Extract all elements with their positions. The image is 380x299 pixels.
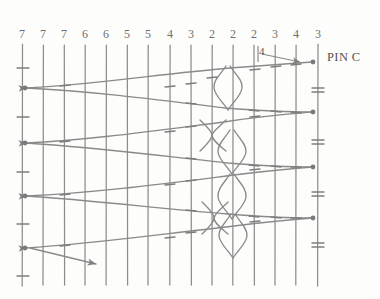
wiring-diagram: 7 7 7 6 6 5 5 4 3 2 2 2 3 4 3 4 PIN C (0, 0, 380, 299)
horizontal-wire-runs (26, 62, 312, 264)
column-label-4: 6 (82, 28, 88, 40)
column-label-1: 7 (19, 28, 25, 40)
vertical-grid-lines (22, 44, 318, 286)
diagram-canvas (0, 0, 380, 299)
column-label-12: 2 (251, 28, 257, 40)
column-label-11: 2 (230, 28, 236, 40)
column-label-6: 5 (124, 28, 130, 40)
column-label-9: 3 (188, 28, 194, 40)
column-label-2: 7 (40, 28, 46, 40)
pin-c-label: PIN C (327, 51, 361, 64)
column-label-5: 6 (103, 28, 109, 40)
count-four-annotation: 4 (259, 46, 265, 57)
column-label-15: 3 (315, 28, 321, 40)
column-label-14: 4 (293, 28, 299, 40)
column-label-13: 3 (272, 28, 278, 40)
column-label-3: 7 (61, 28, 67, 40)
column-label-7: 5 (145, 28, 151, 40)
braid-crossing-group (200, 66, 247, 258)
column-label-8: 4 (167, 28, 173, 40)
column-label-10: 2 (209, 28, 215, 40)
